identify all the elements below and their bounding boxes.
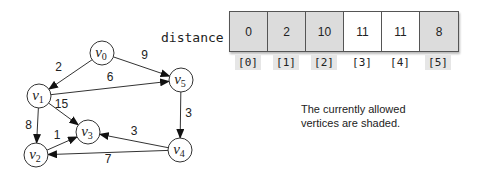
node-v0: v0 xyxy=(90,41,114,65)
distance-array: 0 2 10 11 11 8 xyxy=(229,11,459,52)
graph-diagram: 2961581337 v0v1v2v3v4v5 xyxy=(0,0,240,180)
array-index-3: [3] xyxy=(349,55,375,70)
node-v2: v2 xyxy=(24,143,48,167)
edge-weight-v5-v4: 3 xyxy=(185,106,192,120)
array-index-2: [2] xyxy=(311,55,337,70)
edge-weight-v1-v3: 15 xyxy=(55,97,69,111)
edge-weight-v4-v2: 7 xyxy=(105,152,112,166)
edge-weight-v2-v3: 1 xyxy=(54,128,61,142)
distance-array-label: distance xyxy=(161,30,224,45)
edge-weight-v1-v2: 8 xyxy=(25,118,32,132)
node-v4: v4 xyxy=(168,138,192,162)
array-index-0: [0] xyxy=(235,55,261,70)
array-index-5: [5] xyxy=(425,55,451,70)
shading-note-line-2: vertices are shaded. xyxy=(301,116,406,130)
node-v1: v1 xyxy=(27,84,51,108)
array-cell-2: 10 xyxy=(306,12,344,51)
array-index-row: [0] [1] [2] [3] [4] [5] xyxy=(229,55,457,70)
edge-weight-v4-v3: 3 xyxy=(131,124,138,138)
edge-v1-v2 xyxy=(37,108,39,143)
shading-note: The currently allowed vertices are shade… xyxy=(301,102,406,130)
array-cell-4: 11 xyxy=(382,12,420,51)
node-v5: v5 xyxy=(169,68,193,92)
edge-v2-v3 xyxy=(47,137,77,150)
array-cell-1: 2 xyxy=(268,12,306,51)
shading-note-line-1: The currently allowed xyxy=(301,102,406,116)
edge-weight-v1-v5: 6 xyxy=(107,70,114,84)
edge-weight-v0-v5: 9 xyxy=(141,48,148,62)
array-cell-3: 11 xyxy=(344,12,382,51)
array-index-1: [1] xyxy=(273,55,299,70)
array-cell-0: 0 xyxy=(230,12,268,51)
array-cell-5: 8 xyxy=(420,12,458,51)
edge-weight-v0-v1: 2 xyxy=(55,60,62,74)
node-v3: v3 xyxy=(76,120,100,144)
array-index-4: [4] xyxy=(387,55,413,70)
edge-v5-v4 xyxy=(180,92,181,138)
